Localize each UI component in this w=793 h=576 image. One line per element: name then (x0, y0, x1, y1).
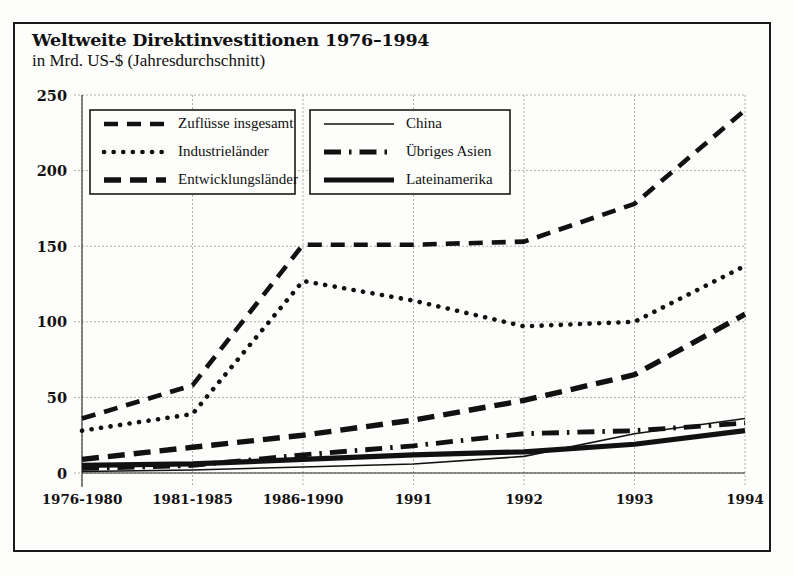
chart-page: Weltweite Direktinvestitionen 1976–1994 … (0, 0, 793, 576)
legend-label: Lateinamerika (406, 171, 493, 187)
x-tick-label: 1991 (395, 491, 433, 507)
y-tick-label: 0 (57, 465, 67, 482)
legend-label: Entwicklungsländer (178, 171, 298, 187)
legend-label: China (406, 115, 442, 131)
x-tick-label: 1994 (726, 491, 764, 507)
legend-label: Zuflüsse insgesamt (178, 115, 294, 131)
x-tick-label: 1981-1985 (152, 491, 233, 507)
x-tick-label: 1976-1980 (42, 491, 123, 507)
line-chart: 050100150200250 1976-19801981-19851986-1… (0, 0, 793, 576)
y-tick-label: 100 (37, 313, 67, 330)
y-tick-label: 150 (37, 238, 67, 255)
legend-label: Übriges Asien (406, 143, 492, 159)
y-tick-label: 200 (37, 162, 67, 179)
x-tick-label: 1992 (505, 491, 543, 507)
y-tick-label: 50 (47, 389, 67, 406)
chart-legend: Zuflüsse insgesamtIndustrieländerEntwick… (90, 110, 510, 194)
y-axis-tick-labels: 050100150200250 (37, 87, 67, 482)
x-tick-label: 1993 (616, 491, 654, 507)
y-tick-label: 250 (37, 87, 67, 104)
legend-label: Industrieländer (178, 143, 269, 159)
x-tick-label: 1986-1990 (263, 491, 344, 507)
x-axis-tick-labels: 1976-19801981-19851986-19901991199219931… (42, 491, 764, 507)
